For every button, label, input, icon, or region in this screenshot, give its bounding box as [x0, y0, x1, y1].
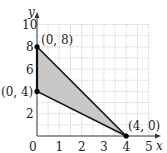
x-tick-5: 5: [145, 140, 153, 153]
point-label-4-0: (4, 0): [128, 119, 160, 133]
x-tick-4: 4: [123, 140, 131, 153]
feasible-region-chart: (0, 8) (0, 4) (4, 0) 0 1 2 3 4 5 x 2 4 6…: [0, 0, 167, 153]
y-tick-8: 8: [26, 40, 34, 54]
point-4-0: [124, 133, 129, 138]
x-axis-arrow-icon: [155, 134, 161, 139]
point-0-8: [34, 44, 39, 49]
x-tick-2: 2: [78, 140, 86, 153]
y-tick-6: 6: [26, 63, 34, 77]
x-axis-label: x: [156, 139, 163, 153]
y-tick-10: 10: [22, 18, 37, 32]
x-tick-0: 0: [29, 140, 37, 153]
x-tick-1: 1: [56, 140, 64, 153]
point-label-0-8: (0, 8): [41, 33, 73, 47]
y-axis-label: y: [27, 5, 35, 19]
x-tick-3: 3: [100, 140, 108, 153]
point-label-0-4: (0, 4): [1, 85, 33, 99]
point-0-4: [34, 89, 39, 94]
y-tick-2: 2: [26, 107, 34, 121]
